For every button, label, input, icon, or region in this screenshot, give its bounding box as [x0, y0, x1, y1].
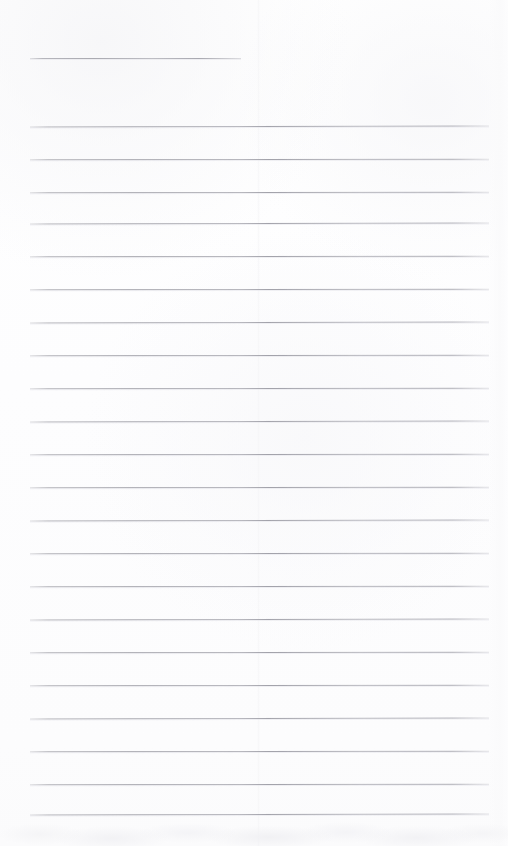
rule-line [30, 586, 489, 588]
rule-line [30, 553, 489, 555]
rule-line [30, 126, 489, 128]
rule-line [30, 718, 489, 720]
rule-line [30, 520, 489, 522]
bottom-scan-smudge [0, 820, 508, 846]
rule-line [30, 256, 489, 258]
rule-line [30, 355, 489, 357]
rule-line [30, 388, 489, 390]
rule-line [30, 454, 489, 456]
rule-line [30, 421, 489, 423]
scanned-page [0, 0, 508, 846]
rule-line [30, 685, 489, 687]
rule-line [30, 159, 489, 161]
rule-line [30, 487, 489, 489]
rule-line [30, 192, 489, 194]
rule-line [30, 652, 489, 654]
rule-line [30, 289, 489, 291]
rule-line [30, 751, 489, 753]
rule-line [30, 814, 489, 816]
rule-line-title [30, 58, 241, 59]
rule-line [30, 223, 489, 225]
rule-line [30, 619, 489, 621]
right-edge-scan-shadow [488, 0, 508, 846]
rule-line [30, 784, 489, 786]
rule-line [30, 322, 489, 324]
